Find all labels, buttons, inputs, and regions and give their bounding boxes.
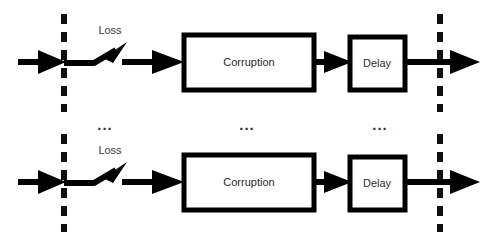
top-delay-label: Delay — [363, 57, 392, 69]
bottom-arrow-to-delay — [314, 171, 352, 193]
ellipsis-center: ... — [239, 116, 255, 133]
top-loss-arrow — [64, 42, 127, 63]
bottom-corruption-label: Corruption — [223, 176, 274, 188]
diagram-svg: Loss Corruption Delay ... ... ... — [0, 0, 491, 240]
top-corruption-label: Corruption — [223, 56, 274, 68]
top-input-arrow — [18, 50, 66, 74]
top-loss-label: Loss — [98, 24, 122, 36]
ellipsis-left: ... — [97, 116, 113, 133]
bottom-loss-arrow — [64, 162, 127, 183]
top-arrow-to-corruption — [122, 50, 184, 74]
top-arrow-to-delay — [314, 51, 352, 73]
bottom-input-arrow — [18, 170, 66, 194]
block-diagram-canvas: Loss Corruption Delay ... ... ... — [0, 0, 491, 240]
bottom-arrow-to-corruption — [122, 170, 184, 194]
ellipsis-right: ... — [372, 116, 388, 133]
bottom-loss-label: Loss — [98, 144, 122, 156]
bottom-delay-label: Delay — [363, 177, 392, 189]
